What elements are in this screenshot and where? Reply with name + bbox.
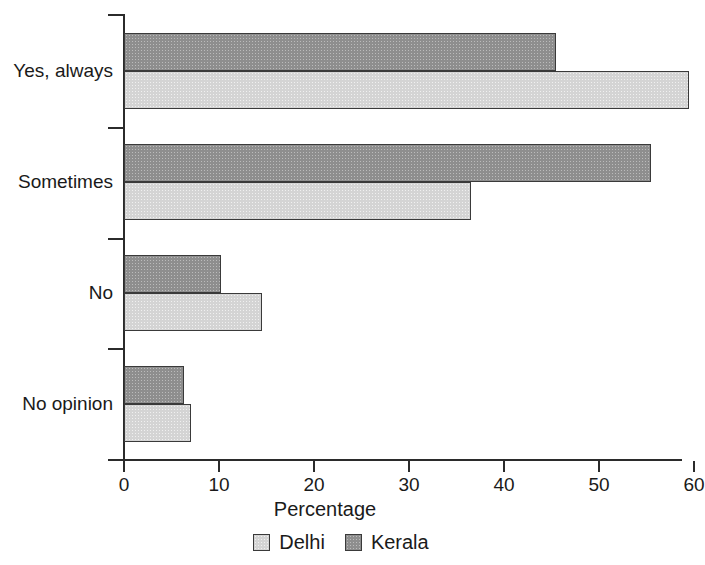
bar-kerala-2 [124,144,651,182]
category-label-1: Yes, always [0,60,113,82]
kerala-swatch-icon [345,534,362,551]
bar-delhi-3 [124,293,262,331]
x-axis-tick [313,461,315,472]
y-axis-tick [108,127,123,129]
value-axis-line [108,459,682,461]
x-axis-tick-label: 40 [493,474,514,496]
legend-item-delhi: Delhi [253,531,325,554]
delhi-swatch-icon [253,534,270,551]
y-axis-tick-top [108,14,123,16]
category-label-2: Sometimes [0,171,113,193]
y-axis-tick [108,238,123,240]
legend-label-kerala: Kerala [371,531,429,554]
bar-kerala-4 [124,366,184,404]
x-axis-tick [123,461,125,472]
x-axis-tick [408,461,410,472]
bar-delhi-4 [124,404,191,442]
x-axis-tick-label: 60 [683,474,704,496]
y-axis-tick [108,348,123,350]
x-axis-tick [693,461,695,472]
x-axis-tick-label: 30 [398,474,419,496]
bar-delhi-2 [124,182,471,220]
bar-delhi-1 [124,71,689,109]
x-axis-tick-label: 10 [208,474,229,496]
chart-legend: Delhi Kerala [0,531,682,554]
x-axis-title-label: Percentage [274,498,376,521]
bar-kerala-3 [124,255,221,293]
legend-label-delhi: Delhi [279,531,325,554]
bar-kerala-1 [124,33,556,71]
x-axis-tick-label: 50 [588,474,609,496]
category-label-4: No opinion [0,393,113,415]
x-axis-tick [503,461,505,472]
x-axis-tick [598,461,600,472]
x-axis-tick [218,461,220,472]
x-axis-tick-label: 20 [303,474,324,496]
legend-item-kerala: Kerala [345,531,429,554]
category-label-3: No [0,282,113,304]
x-axis-title: Percentage [0,498,682,521]
x-axis-tick-label: 0 [119,474,130,496]
